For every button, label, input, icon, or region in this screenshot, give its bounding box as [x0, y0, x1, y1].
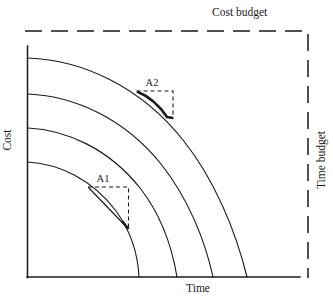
chart-container: Cost budget Time budget Cost Time A1 A2 [0, 0, 333, 296]
x-axis-label: Time [186, 282, 210, 294]
cost-time-frontier-chart: Cost budget Time budget Cost Time A1 A2 [0, 0, 333, 296]
y-axis-label: Cost [1, 129, 13, 151]
frontier-curve-3 [28, 94, 213, 277]
cost-budget-label: Cost budget [212, 6, 268, 19]
a1-bold-curve-segment [122, 221, 129, 229]
region-a2-label: A2 [146, 77, 159, 88]
time-budget-label: Time budget [315, 130, 328, 189]
budget-frame-dashed [25, 31, 308, 278]
frontier-curve-1 [28, 162, 139, 277]
region-a1-label: A1 [97, 173, 110, 184]
a2-bold-curve-segment [137, 92, 173, 119]
